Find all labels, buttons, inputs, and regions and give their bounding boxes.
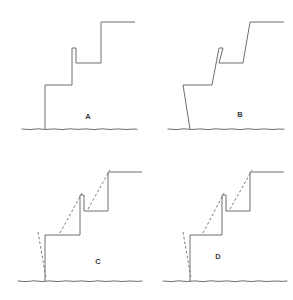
dashed-overlay-c-3	[88, 170, 110, 209]
ground-line-b	[168, 129, 284, 130]
ground-line-d	[163, 281, 287, 282]
panel-b: B	[168, 22, 284, 130]
ground-line-a	[22, 129, 137, 130]
dashed-overlay-c-2	[60, 193, 82, 233]
panel-label-c: C	[95, 257, 101, 266]
panel-label-d: D	[215, 252, 221, 261]
dashed-overlay-d-3	[230, 170, 252, 209]
staircase-diagram-svg: A B C D	[0, 0, 293, 300]
panel-a: A	[22, 22, 137, 130]
figure-container: A B C D	[0, 0, 293, 300]
panel-c: C	[18, 170, 142, 282]
panel-label-b: B	[237, 110, 243, 119]
staircase-outline-d	[190, 172, 284, 281]
panel-label-a: A	[85, 112, 91, 121]
staircase-outline-c	[45, 172, 142, 281]
staircase-outline-b	[183, 22, 284, 129]
panel-d: D	[163, 170, 287, 282]
ground-line-c	[18, 281, 142, 282]
dashed-overlay-d-2	[203, 193, 224, 233]
